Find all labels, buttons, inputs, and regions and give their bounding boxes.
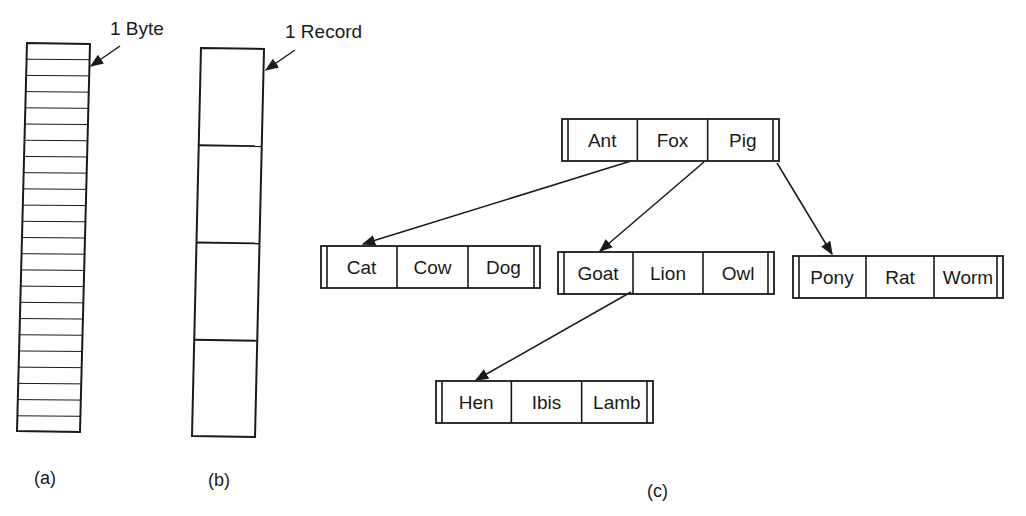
node-key: Cat [347,257,377,278]
record-row-divider [194,340,257,341]
record-row-divider [197,243,260,244]
record-annotation: 1 Record [285,21,362,42]
edge-root-n1 [363,161,631,244]
node-key: Lion [650,263,686,284]
byte-row-divider [20,302,83,303]
byte-sequence-figure: 1 Byte (a) [17,18,164,488]
tree-node-n2: GoatLionOwl [558,252,774,294]
byte-row-divider [26,75,89,76]
byte-row-divider [25,124,88,125]
byte-row-divider [23,189,86,190]
byte-row-divider [19,367,82,368]
byte-row-divider [20,319,83,320]
byte-row-divider [20,335,83,336]
byte-row-divider [22,238,85,239]
node-key: Ant [588,130,617,151]
edge-root-n2 [600,162,704,251]
byte-row-divider [24,156,87,157]
node-key: Lamb [593,392,641,413]
node-key: Fox [657,130,689,151]
file-structures-diagram: 1 Byte (a) 1 Record (b) AntFoxPigCatCowD… [0,0,1026,516]
byte-row-divider [19,351,82,352]
byte-row-divider [18,400,81,401]
record-pointer-arrow [266,50,295,70]
tree-node-n4: HenIbisLamb [436,381,653,423]
edge-root-n3 [777,163,832,254]
edge-n2-n4 [476,292,631,380]
node-key: Pig [729,130,756,151]
record-rows [194,145,262,341]
byte-row-divider [21,286,84,287]
node-key: Dog [486,257,521,278]
node-key: Hen [459,392,494,413]
record-tree-figure: AntFoxPigCatCowDogGoatLionOwlPonyRatWorm… [321,119,1003,501]
byte-row-divider [17,416,80,417]
byte-row-divider [25,140,88,141]
byte-row-divider [21,270,84,271]
byte-row-divider [26,92,89,93]
tree-nodes: AntFoxPigCatCowDogGoatLionOwlPonyRatWorm… [321,119,1003,423]
node-key: Worm [943,267,993,288]
node-key: Owl [722,263,755,284]
record-sequence-figure: 1 Record (b) [192,21,362,490]
byte-row-divider [18,383,81,384]
caption-c: (c) [647,481,668,501]
node-key: Rat [885,267,915,288]
caption-b: (b) [208,470,230,490]
record-row-divider [199,145,262,146]
tree-node-n3: PonyRatWorm [793,256,1003,298]
byte-annotation: 1 Byte [110,18,164,39]
byte-row-divider [27,59,90,60]
byte-pointer-arrow [91,46,120,66]
caption-a: (a) [34,468,56,488]
node-key: Goat [577,263,619,284]
byte-row-divider [24,173,87,174]
node-key: Cow [413,257,451,278]
byte-rows [17,59,89,416]
node-key: Ibis [532,392,562,413]
tree-node-root: AntFoxPig [562,119,779,161]
tree-node-n1: CatCowDog [321,246,540,288]
byte-row-divider [22,221,85,222]
byte-row-divider [23,205,86,206]
byte-row-divider [25,108,88,109]
byte-row-divider [22,254,85,255]
node-key: Pony [810,267,854,288]
